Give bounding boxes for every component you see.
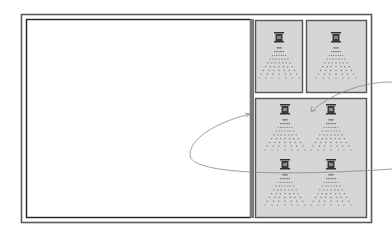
panel-top-right (307, 21, 367, 93)
wall-divider (250, 19, 254, 218)
open-area (27, 20, 251, 218)
panel-top-left (256, 21, 303, 93)
panel-bottom (256, 99, 367, 218)
diagram-canvas (0, 0, 392, 227)
